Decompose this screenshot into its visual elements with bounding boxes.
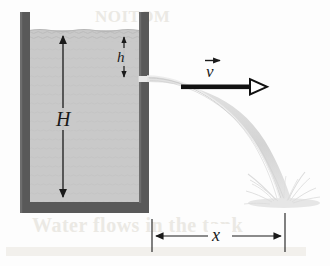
velocity-vector-shaft [181, 85, 251, 90]
water-stream-body [147, 76, 292, 202]
dimension-x-label: x [211, 225, 220, 245]
tank-wall-left-highlight [20, 12, 22, 213]
velocity-vector-arrowhead [250, 79, 267, 94]
tank-group [20, 12, 150, 213]
tank-wall-bottom [20, 202, 149, 213]
dimension-H-label: H [55, 108, 72, 130]
velocity-label: v [206, 62, 214, 81]
splash-spray-right-1 [288, 172, 305, 200]
water-surface-ripples [29, 30, 139, 41]
water-stream-group [147, 76, 292, 202]
physics-figure: Water flows in the tank NOITOM [0, 0, 330, 266]
water-tank-diagram: Water flows in the tank NOITOM [0, 0, 330, 266]
ghost-band [6, 247, 306, 256]
ghost-text-top: NOITOM [95, 7, 170, 26]
dimension-h-label: h [117, 49, 125, 65]
tank-wall-right-highlight [139, 12, 141, 203]
